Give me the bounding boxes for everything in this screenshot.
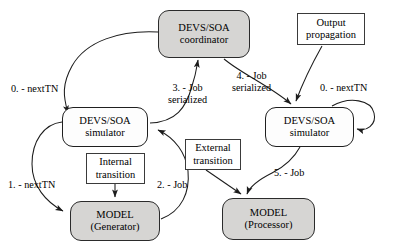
node-output-propagation-line2: propagation — [306, 29, 356, 41]
edge-model-generator-to-simulator-left — [158, 130, 188, 219]
edge-label-4-job-serialized-line1: 4. - Job — [232, 70, 271, 82]
edge-label-0-nexttn-left: 0. - nextTN — [11, 83, 58, 95]
edge-label-3-job-serialized: 3. - Job serialized — [168, 82, 207, 106]
node-external-transition-line1: External — [195, 142, 231, 154]
node-internal-transition[interactable]: Internal transition — [86, 153, 145, 184]
edge-output-propagation-to-simulator-right — [296, 46, 322, 101]
edge-coordinator-to-simulator-left — [64, 32, 158, 113]
node-coordinator[interactable]: DEVS/SOA coordinator — [158, 10, 250, 58]
node-simulator-left[interactable]: DEVS/SOA simulator — [62, 107, 148, 147]
edge-label-5-job-line1: 5. - Job — [274, 167, 304, 179]
node-coordinator-line1: DEVS/SOA — [178, 22, 229, 34]
edge-simulator-left-to-model-generator — [32, 122, 63, 211]
edge-label-0-nexttn-right-line1: 0. - nextTN — [320, 82, 367, 94]
edge-label-1-nexttn-line1: 1. - nextTN — [8, 179, 55, 191]
node-model-processor[interactable]: MODEL (Processor) — [222, 198, 315, 240]
node-output-propagation[interactable]: Output propagation — [297, 13, 365, 45]
node-model-processor-line2: (Processor) — [245, 219, 293, 231]
node-output-propagation-line1: Output — [316, 17, 345, 29]
edge-label-4-job-serialized-line2: serialized — [232, 82, 271, 94]
node-model-generator-line1: MODEL — [96, 209, 133, 221]
node-simulator-right[interactable]: DEVS/SOA simulator — [265, 107, 354, 147]
edge-external-transition-to-model-processor — [206, 170, 241, 194]
edge-label-2-job: 2. - Job — [157, 179, 187, 191]
node-internal-transition-line1: Internal — [99, 156, 132, 168]
node-external-transition-line2: transition — [193, 155, 233, 167]
edge-label-2-job-line1: 2. - Job — [157, 179, 187, 191]
node-simulator-right-line2: simulator — [290, 127, 330, 139]
edge-label-3-job-serialized-line1: 3. - Job — [168, 82, 207, 94]
node-simulator-left-line2: simulator — [85, 127, 125, 139]
edge-label-3-job-serialized-line2: serialized — [168, 94, 207, 106]
diagram-canvas: DEVS/SOA coordinator Output propagation … — [0, 0, 406, 252]
node-simulator-right-line1: DEVS/SOA — [284, 115, 335, 127]
edge-label-1-nexttn: 1. - nextTN — [8, 179, 55, 191]
node-model-generator-line2: (Generator) — [91, 221, 140, 233]
edge-label-0-nexttn-right: 0. - nextTN — [320, 82, 367, 94]
edge-label-5-job: 5. - Job — [274, 167, 304, 179]
node-simulator-left-line1: DEVS/SOA — [79, 115, 130, 127]
node-model-generator[interactable]: MODEL (Generator) — [70, 201, 160, 241]
node-coordinator-line2: coordinator — [180, 34, 228, 46]
node-internal-transition-line2: transition — [96, 169, 136, 181]
edge-label-4-job-serialized: 4. - Job serialized — [232, 70, 271, 94]
node-model-processor-line1: MODEL — [250, 207, 287, 219]
node-external-transition[interactable]: External transition — [185, 139, 241, 170]
edge-label-0-nexttn-left-line1: 0. - nextTN — [11, 83, 58, 95]
